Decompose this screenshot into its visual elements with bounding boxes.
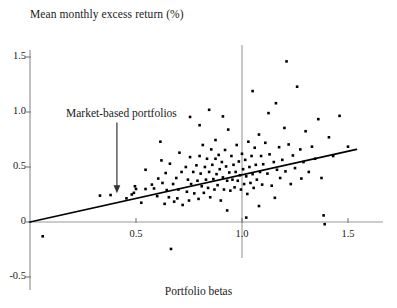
x-tick-label: 0.5 (121, 228, 151, 239)
data-point (258, 205, 261, 208)
data-point (161, 182, 164, 185)
data-point (322, 214, 325, 217)
data-point (304, 130, 307, 133)
data-point (214, 157, 217, 160)
data-point (236, 179, 239, 182)
data-point (159, 140, 162, 143)
data-point (300, 177, 303, 180)
data-point (281, 159, 284, 162)
data-point (209, 196, 212, 199)
data-point (173, 200, 176, 203)
data-point (253, 146, 256, 149)
y-tick-label: 0 (0, 215, 26, 226)
data-point (249, 182, 252, 185)
data-point (227, 128, 230, 131)
x-tick-label: 1.0 (227, 228, 257, 239)
data-point (210, 148, 213, 151)
data-point (200, 185, 203, 188)
annotation-arrow (114, 122, 121, 193)
data-point (284, 170, 287, 173)
data-point (214, 139, 217, 142)
data-point (273, 161, 276, 164)
data-point (279, 177, 282, 180)
data-point (242, 168, 245, 171)
data-point (226, 209, 229, 212)
data-point (206, 157, 209, 160)
x-tick-label: 1.5 (333, 228, 363, 239)
data-point (264, 142, 267, 145)
data-point (254, 164, 257, 167)
data-point (294, 167, 297, 170)
data-point (278, 146, 281, 149)
data-point (189, 116, 192, 119)
data-point (251, 90, 254, 93)
data-point (283, 127, 286, 130)
data-point (187, 178, 190, 181)
data-point (192, 171, 195, 174)
data-point (250, 155, 253, 158)
data-point (125, 197, 128, 200)
data-point (160, 159, 163, 162)
data-point (317, 118, 320, 121)
data-point (248, 166, 251, 169)
data-point (156, 195, 159, 198)
data-point (292, 154, 295, 157)
chart-figure: Mean monthly excess return (%) 1.51.00.5… (0, 0, 397, 308)
data-point (320, 177, 323, 180)
data-point (208, 109, 211, 112)
data-point (240, 188, 243, 191)
data-point (177, 188, 180, 191)
data-point (258, 133, 261, 136)
scatter-plot-canvas (0, 0, 397, 308)
data-point (241, 153, 244, 156)
data-point (172, 183, 175, 186)
data-point (217, 154, 220, 157)
data-point (164, 172, 167, 175)
data-point (232, 164, 235, 167)
data-point (176, 197, 179, 200)
data-point (259, 171, 262, 174)
data-point (197, 198, 200, 201)
data-point (275, 102, 278, 105)
data-point (225, 165, 228, 168)
data-point (196, 179, 199, 182)
data-point (262, 163, 265, 166)
data-point (289, 183, 292, 186)
data-point (234, 171, 237, 174)
data-point (220, 199, 223, 202)
data-point (332, 155, 335, 158)
data-point (190, 183, 193, 186)
data-point (285, 60, 288, 63)
data-point (151, 183, 154, 186)
data-point (198, 124, 201, 127)
data-point (323, 223, 326, 226)
data-point (169, 162, 172, 165)
data-point (208, 171, 211, 174)
data-point (261, 183, 264, 186)
data-point (181, 204, 184, 207)
data-point (268, 153, 271, 156)
data-point (178, 151, 181, 154)
data-point (243, 183, 246, 186)
data-point (347, 145, 350, 148)
data-point (186, 190, 189, 193)
data-point (153, 187, 156, 190)
y-tick-label: 1.0 (0, 105, 26, 116)
data-point (109, 194, 112, 197)
data-point (245, 175, 248, 178)
data-point (238, 160, 241, 163)
data-point (311, 145, 314, 148)
data-point (205, 178, 208, 181)
data-point (165, 189, 168, 192)
data-point (215, 173, 218, 176)
data-point (251, 173, 254, 176)
data-point (314, 157, 317, 160)
data-point (267, 112, 270, 115)
data-point (338, 115, 341, 118)
data-point (245, 216, 248, 219)
y-tick-label: -0.5 (0, 270, 26, 281)
data-point (246, 193, 249, 196)
data-point (233, 186, 236, 189)
data-point (270, 184, 273, 187)
data-point (180, 171, 183, 174)
